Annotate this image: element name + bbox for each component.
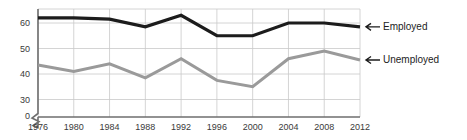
y-axis-line	[32, 9, 39, 128]
left-arrow-icon	[366, 56, 380, 63]
line-chart: 605040300 197619801984198819921996200020…	[0, 0, 467, 140]
x-tick-label-2004: 2004	[278, 122, 298, 132]
x-tick-label-1992: 1992	[171, 122, 191, 132]
x-tick-label-1988: 1988	[135, 122, 155, 132]
y-axis-tick-labels: 605040300	[20, 18, 30, 121]
y-tick-label-60: 60	[20, 18, 30, 28]
x-tick-label-1996: 1996	[207, 122, 227, 132]
y-tick-label-50: 50	[20, 44, 30, 54]
legend-entry-unemployed: Unemployed	[366, 54, 439, 65]
x-tick-label-1980: 1980	[64, 122, 84, 132]
x-tick-label-2000: 2000	[243, 122, 263, 132]
legend-entry-employed: Employed	[366, 21, 427, 32]
x-axis-tick-labels: 1976198019841988199219962000200420082012	[28, 122, 370, 132]
y-tick-label-0: 0	[25, 111, 30, 121]
chart-container: 605040300 197619801984198819921996200020…	[0, 0, 467, 140]
legend-label-employed: Employed	[383, 21, 427, 32]
x-tick-label-2012: 2012	[350, 122, 370, 132]
y-tick-label-30: 30	[20, 95, 30, 105]
chart-legend: Employed Unemployed	[366, 21, 439, 65]
y-tick-label-40: 40	[20, 69, 30, 79]
legend-label-unemployed: Unemployed	[383, 54, 439, 65]
series-line-unemployed	[38, 51, 360, 87]
series-line-employed	[38, 15, 360, 35]
left-arrow-icon	[366, 23, 380, 30]
x-tick-label-1984: 1984	[100, 122, 120, 132]
data-series-group	[38, 15, 360, 86]
x-tick-label-1976: 1976	[28, 122, 48, 132]
x-tick-label-2008: 2008	[314, 122, 334, 132]
